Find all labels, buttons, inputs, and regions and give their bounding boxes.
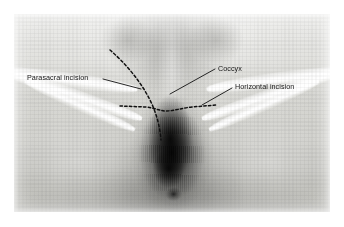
figure-root: Parasacral incision Coccyx Horizontal in… (0, 0, 344, 227)
annotation-label-horizontal: Horizontal incision (235, 83, 294, 90)
horizontal-incision-line (120, 105, 216, 111)
leader-line-coccyx (170, 69, 215, 94)
leader-line-group (103, 69, 232, 105)
annotation-label-parasacral: Parasacral incision (27, 74, 88, 81)
annotation-overlay (0, 0, 344, 227)
leader-line-parasacral (103, 79, 141, 89)
incision-marking-group (110, 50, 216, 140)
leader-line-horizontal (202, 88, 232, 105)
parasacral-incision-line (110, 50, 161, 140)
annotation-label-coccyx: Coccyx (218, 65, 242, 72)
